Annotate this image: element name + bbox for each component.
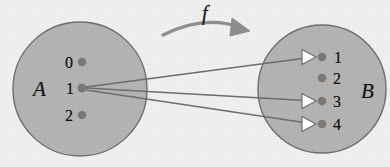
element-dot: [78, 84, 87, 93]
set-a-element-label-1: 1: [66, 81, 74, 97]
set-a-element-label-2: 2: [65, 108, 73, 124]
element-dot: [318, 74, 327, 83]
element-dot: [318, 97, 327, 106]
function-label-f: f: [202, 3, 208, 23]
set-a-label: A: [33, 79, 46, 100]
set-b-label: B: [361, 81, 374, 102]
set-b-element-label-4: 4: [333, 117, 341, 133]
element-dot: [78, 111, 87, 120]
element-dot: [78, 58, 87, 67]
mapping-diagram-svg: [0, 0, 390, 167]
set-b-element-label-3: 3: [333, 94, 341, 110]
set-b-element-label-1: 1: [334, 50, 342, 66]
figure-canvas: A B 0 1 2 1 2 3 4 f: [0, 0, 390, 167]
function-arc-arrowhead-icon: [230, 18, 250, 36]
set-b-element-label-2: 2: [333, 71, 341, 87]
element-dot: [318, 120, 327, 129]
element-dot: [318, 53, 327, 62]
set-a-element-label-0: 0: [65, 55, 73, 71]
